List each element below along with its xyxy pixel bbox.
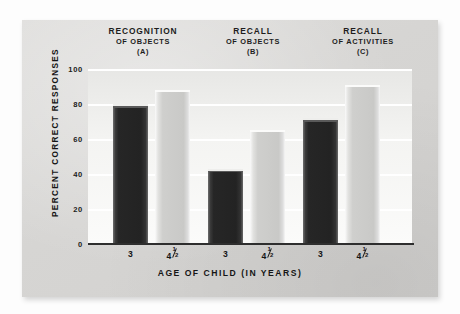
group-titles-row: RECOGNITION OF OBJECTS (A) RECALL OF OBJ… [88,26,418,70]
x-axis-title: AGE OF CHILD (IN YEARS) [22,268,438,278]
group-title-c: RECALL OF ACTIVITIES (C) [308,26,418,70]
bar-group-b-age-4h [250,130,285,244]
plot-area: 020406080100 [88,69,412,244]
x-tick-label: 3 [208,249,243,259]
figure-root: RECOGNITION OF OBJECTS (A) RECALL OF OBJ… [0,0,460,314]
y-tick-label: 40 [73,170,83,179]
x-tick-label: 412 [155,249,190,261]
y-tick-label: 80 [73,100,83,109]
group-title-c-line3: (C) [308,47,418,57]
bar-group-c-age-4h [345,85,380,244]
x-tick-label: 3 [113,249,148,259]
y-tick-label: 0 [78,240,83,249]
bar-group-b-age-3 [208,169,243,244]
chart-card: RECOGNITION OF OBJECTS (A) RECALL OF OBJ… [22,20,438,297]
y-tick-label: 60 [73,135,83,144]
bar-group-a-age-4h [155,90,190,244]
x-tick-label: 3 [303,249,338,259]
group-title-b-line1: RECALL [198,26,308,37]
group-title-c-line2: OF ACTIVITIES [308,37,418,47]
group-title-b: RECALL OF OBJECTS (B) [198,26,308,70]
group-title-b-line2: OF OBJECTS [198,37,308,47]
x-axis-line [88,243,414,245]
group-title-a-line3: (A) [88,47,198,57]
bar-group-c-age-3 [303,118,338,244]
y-tick-label: 20 [73,205,83,214]
y-axis-title: PERCENT CORRECT RESPONSES [51,38,60,228]
x-tick-label: 412 [250,249,285,261]
bar-group-a-age-3 [113,104,148,244]
gridline [88,69,412,71]
group-title-b-line3: (B) [198,47,308,57]
group-title-a-line2: OF OBJECTS [88,37,198,47]
group-title-a: RECOGNITION OF OBJECTS (A) [88,26,198,70]
x-tick-label: 412 [345,249,380,261]
group-title-a-line1: RECOGNITION [88,26,198,37]
y-tick-label: 100 [68,65,83,74]
group-title-c-line1: RECALL [308,26,418,37]
